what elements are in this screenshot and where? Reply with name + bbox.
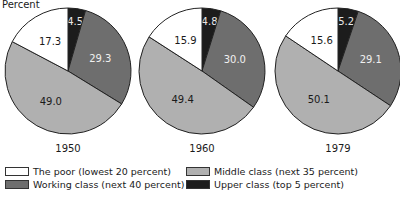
slice-label-poor: 15.9: [174, 35, 196, 46]
slice-label-middle: 50.1: [308, 94, 330, 105]
legend-right: Middle class (next 35 percent) Upper cla…: [186, 165, 358, 191]
slice-label-poor: 17.3: [39, 36, 61, 47]
pie-1979: 5.229.150.115.61979: [275, 8, 400, 154]
pie-1950: 4.529.349.017.31950: [5, 8, 131, 154]
slice-label-working: 29.1: [360, 54, 382, 65]
swatch-upper: [186, 180, 210, 189]
legend-label-working: Working class (next 40 percent): [33, 178, 184, 191]
slice-label-upper: 4.5: [67, 16, 83, 27]
pie-year-label: 1950: [55, 143, 80, 154]
legend-label-poor: The poor (lowest 20 percent): [33, 165, 171, 178]
slice-label-upper: 4.8: [202, 16, 218, 27]
pie-1960: 4.830.049.415.91960: [139, 8, 265, 154]
slice-label-middle: 49.0: [40, 96, 62, 107]
pie-year-label: 1960: [189, 143, 214, 154]
swatch-working: [5, 180, 29, 189]
pie-year-label: 1979: [325, 143, 350, 154]
legend-item-middle: Middle class (next 35 percent): [186, 165, 358, 178]
legend-label-middle: Middle class (next 35 percent): [214, 165, 358, 178]
legend-label-upper: Upper class (top 5 percent): [214, 178, 344, 191]
legend-item-working: Working class (next 40 percent): [5, 178, 184, 191]
swatch-middle: [186, 167, 210, 176]
legend-left: The poor (lowest 20 percent) Working cla…: [5, 165, 184, 191]
slice-label-middle: 49.4: [171, 94, 193, 105]
slice-label-working: 30.0: [224, 54, 246, 65]
legend-item-upper: Upper class (top 5 percent): [186, 178, 358, 191]
slice-label-upper: 5.2: [338, 16, 354, 27]
slice-label-working: 29.3: [89, 53, 111, 64]
legend-item-poor: The poor (lowest 20 percent): [5, 165, 184, 178]
slice-label-poor: 15.6: [311, 35, 333, 46]
swatch-poor: [5, 167, 29, 176]
pie-charts: 4.529.349.017.319504.830.049.415.919605.…: [0, 0, 400, 160]
